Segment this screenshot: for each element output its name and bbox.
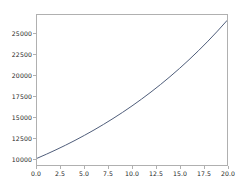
x-tick-label: 17.5 [197, 170, 211, 177]
x-tick-mark [108, 166, 109, 169]
x-tick-mark [36, 166, 37, 169]
chart-figure: 10000125001500017500200002250025000 0.02… [0, 0, 241, 193]
x-tick-label: 7.5 [103, 170, 113, 177]
x-tick-mark [84, 166, 85, 169]
x-tick-label: 12.5 [149, 170, 163, 177]
x-tick-label: 5.0 [79, 170, 89, 177]
x-tick-mark [180, 166, 181, 169]
x-tick-mark [156, 166, 157, 169]
x-tick-label: 15.0 [173, 170, 187, 177]
x-tick-label: 20.0 [221, 170, 235, 177]
x-tick-label: 2.5 [55, 170, 65, 177]
x-tick-label: 0.0 [31, 170, 41, 177]
x-tick-mark [204, 166, 205, 169]
x-tick-mark [132, 166, 133, 169]
x-tick-label: 10.0 [125, 170, 139, 177]
x-tick-mark [228, 166, 229, 169]
x-axis-tick-labels: 0.02.55.07.510.012.515.017.520.0 [0, 0, 241, 193]
x-tick-mark [60, 166, 61, 169]
